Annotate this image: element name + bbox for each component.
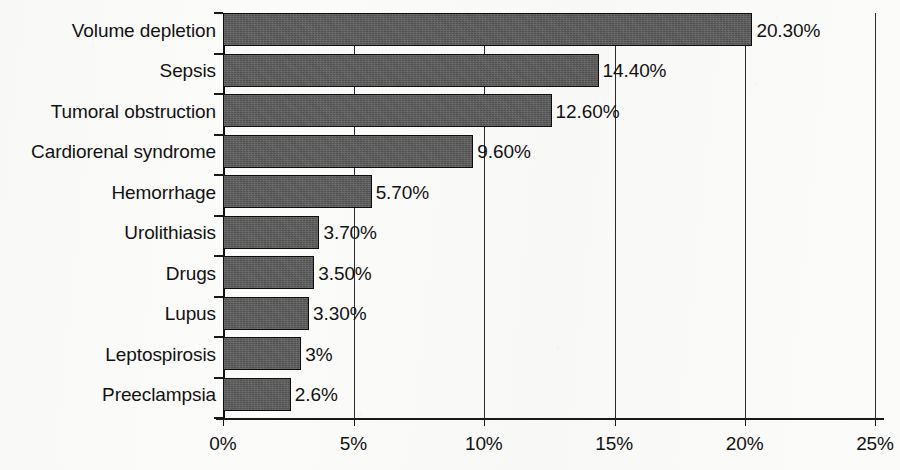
category-label: Urolithiasis <box>124 223 216 242</box>
category-label: Cardiorenal syndrome <box>31 142 216 161</box>
bar <box>223 378 291 411</box>
bar <box>223 256 314 289</box>
bar-value-label: 3.70% <box>323 223 376 242</box>
category-label: Leptospirosis <box>105 345 216 364</box>
bar-value-label: 5.70% <box>376 183 429 202</box>
x-tick-mark <box>354 419 355 426</box>
bar-value-label: 12.60% <box>556 102 620 121</box>
x-tick-label: 25% <box>856 434 894 453</box>
bar-value-label: 3% <box>305 345 332 364</box>
bar <box>223 94 552 127</box>
category-label: Tumoral obstruction <box>51 102 216 121</box>
x-tick-mark <box>484 419 485 426</box>
bar-row: Leptospirosis3% <box>0 337 900 370</box>
bar-value-label: 3.30% <box>313 304 366 323</box>
bar <box>223 297 309 330</box>
bar-value-label: 14.40% <box>603 61 667 80</box>
x-tick-label: 10% <box>465 434 503 453</box>
bar-row: Tumoral obstruction12.60% <box>0 94 900 127</box>
bar-row: Hemorrhage5.70% <box>0 175 900 208</box>
bar <box>223 13 752 46</box>
x-tick-label: 5% <box>340 434 367 453</box>
category-label: Drugs <box>166 264 216 283</box>
bar <box>223 216 319 249</box>
x-tick-mark <box>223 419 224 426</box>
bar-value-label: 20.30% <box>756 21 820 40</box>
bar <box>223 337 301 370</box>
y-tick-mark <box>214 417 223 419</box>
category-label: Lupus <box>165 304 216 323</box>
bar-row: Cardiorenal syndrome9.60% <box>0 135 900 168</box>
bar-row: Preeclampsia2.6% <box>0 378 900 411</box>
x-tick-mark <box>875 419 876 426</box>
bar-row: Sepsis14.40% <box>0 54 900 87</box>
x-tick-label: 0% <box>209 434 236 453</box>
x-axis-line <box>216 418 884 420</box>
bar <box>223 175 372 208</box>
bar-chart: Volume depletion20.30%Sepsis14.40%Tumora… <box>0 0 900 470</box>
category-label: Volume depletion <box>72 21 216 40</box>
bar-row: Volume depletion20.30% <box>0 13 900 46</box>
bar-row: Drugs3.50% <box>0 256 900 289</box>
category-label: Hemorrhage <box>111 183 216 202</box>
x-tick-label: 20% <box>726 434 764 453</box>
bar-row: Urolithiasis3.70% <box>0 216 900 249</box>
bar-value-label: 2.6% <box>295 385 338 404</box>
bar-value-label: 9.60% <box>477 142 530 161</box>
bar-value-label: 3.50% <box>318 264 371 283</box>
bar <box>223 54 599 87</box>
category-label: Preeclampsia <box>102 385 216 404</box>
x-tick-mark <box>615 419 616 426</box>
bar-row: Lupus3.30% <box>0 297 900 330</box>
category-label: Sepsis <box>160 61 216 80</box>
bar <box>223 135 473 168</box>
x-tick-mark <box>745 419 746 426</box>
x-tick-label: 15% <box>595 434 633 453</box>
